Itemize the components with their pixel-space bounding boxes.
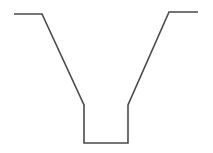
trench-profile-diagram bbox=[0, 0, 213, 153]
profile-outline bbox=[14, 12, 198, 143]
